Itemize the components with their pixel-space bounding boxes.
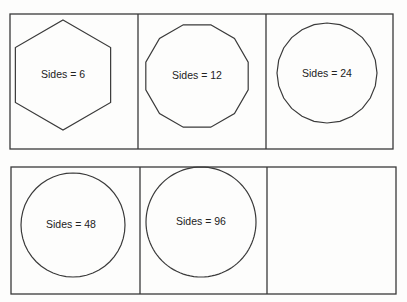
panel-sides-6: Sides = 6	[15, 20, 110, 130]
polygon-figure: Sides = 6 Sides = 12 Sides = 24 Sides = …	[0, 0, 407, 302]
top-row-frame	[10, 14, 393, 149]
top-row-border	[10, 14, 393, 149]
bottom-row-border	[11, 167, 396, 294]
sides-label: Sides = 6	[41, 68, 85, 80]
panel-sides-24: Sides = 24	[277, 23, 377, 123]
bottom-row-frame	[11, 167, 396, 294]
panel-sides-48: Sides = 48	[21, 173, 125, 277]
panel-sides-12: Sides = 12	[146, 25, 248, 127]
sides-label: Sides = 96	[176, 215, 226, 227]
sides-label: Sides = 48	[46, 218, 96, 230]
sides-label: Sides = 24	[302, 67, 352, 79]
sides-label: Sides = 12	[172, 69, 222, 81]
panel-sides-96: Sides = 96	[146, 167, 256, 277]
